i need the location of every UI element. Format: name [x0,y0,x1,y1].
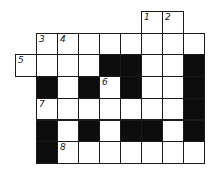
crossword-cell[interactable] [162,141,184,164]
crossword-cell[interactable] [162,33,184,56]
clue-number: 8 [60,142,66,152]
crossword-grid: 12345678 [0,0,218,175]
clue-number: 4 [60,34,66,44]
crossword-cell[interactable] [78,98,100,121]
crossword-cell[interactable] [99,33,121,56]
crossword-cell[interactable] [120,98,142,121]
black-cell [36,141,58,164]
crossword-cell[interactable]: 2 [162,11,184,34]
crossword-cell[interactable] [120,33,142,56]
black-cell [120,54,142,77]
black-cell [120,76,142,99]
crossword-cell[interactable] [141,76,163,99]
crossword-cell[interactable] [183,33,205,56]
crossword-cell[interactable] [141,98,163,121]
crossword-cell[interactable]: 6 [99,76,121,99]
black-cell [36,76,58,99]
crossword-cell[interactable] [141,54,163,77]
clue-number: 6 [102,77,108,87]
crossword-cell[interactable] [78,141,100,164]
crossword-cell[interactable] [183,141,205,164]
black-cell [78,76,100,99]
clue-number: 1 [144,12,150,22]
black-cell [183,120,205,143]
clue-number: 3 [39,34,45,44]
crossword-cell[interactable]: 4 [57,33,79,56]
crossword-cell[interactable]: 1 [141,11,163,34]
crossword-cell[interactable]: 3 [36,33,58,56]
clue-number: 2 [165,12,171,22]
crossword-cell[interactable] [78,33,100,56]
crossword-cell[interactable] [36,54,58,77]
crossword-cell[interactable] [78,54,100,77]
crossword-cell[interactable] [120,141,142,164]
black-cell [36,120,58,143]
black-cell [78,120,100,143]
crossword-cell[interactable] [141,33,163,56]
black-cell [141,120,163,143]
crossword-cell[interactable]: 5 [15,54,37,77]
black-cell [183,54,205,77]
crossword-cell[interactable] [99,120,121,143]
crossword-cell[interactable] [57,76,79,99]
crossword-cell[interactable]: 7 [36,98,58,121]
black-cell [120,120,142,143]
crossword-cell[interactable] [162,98,184,121]
black-cell [99,54,121,77]
black-cell [183,76,205,99]
crossword-cell[interactable] [141,141,163,164]
crossword-cell[interactable]: 8 [57,141,79,164]
crossword-cell[interactable] [162,76,184,99]
crossword-cell[interactable] [57,98,79,121]
crossword-cell[interactable] [162,120,184,143]
clue-number: 7 [39,99,45,109]
crossword-cell[interactable] [99,141,121,164]
crossword-cell[interactable] [57,120,79,143]
crossword-cell[interactable] [99,98,121,121]
crossword-cell[interactable] [57,54,79,77]
clue-number: 5 [18,55,24,65]
black-cell [183,98,205,121]
crossword-cell[interactable] [162,54,184,77]
